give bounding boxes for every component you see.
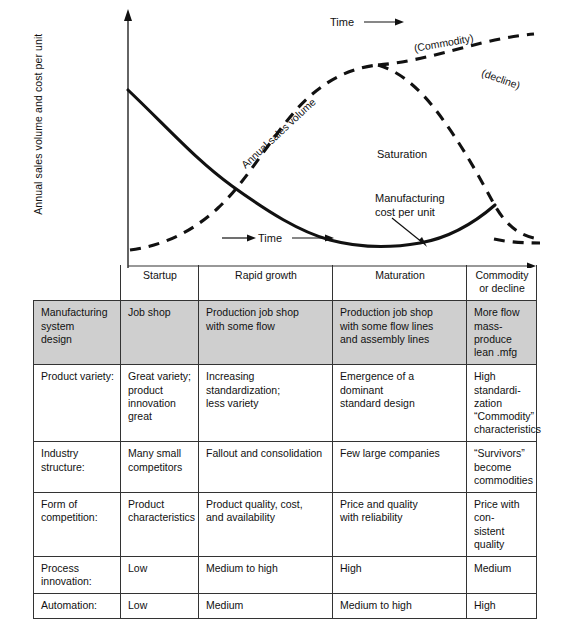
y-axis (124, 9, 132, 268)
table-cell: Job shop (121, 301, 199, 365)
table-cell: Price with con- sistent quality (467, 493, 537, 557)
row-label-manufacturing-system-design: Manufacturing system design (34, 301, 121, 365)
table-cell: Medium to high (199, 556, 333, 593)
table-cell: High (333, 556, 467, 593)
table-cell: Emergence of a dominant standard design (333, 365, 467, 442)
table-row: Automation: Low Medium Medium to high Hi… (34, 594, 537, 618)
row-label-industry-structure: Industry structure: (34, 442, 121, 493)
column-header-commodity-or-decline: Commodity or decline (467, 265, 537, 301)
table-row: Process innovation: Low Medium to high H… (34, 556, 537, 593)
table-row: Manufacturing system design Job shop Pro… (34, 301, 537, 365)
table-row: Form of competition: Product characteris… (34, 493, 537, 557)
table-cell: Great variety; product innovation great (121, 365, 199, 442)
manufacturing-cost-label: Manufacturing cost per unit (375, 192, 445, 220)
table-corner-cell (34, 265, 121, 301)
table-cell: “Survivors” become commodities (467, 442, 537, 493)
table-cell: Medium (199, 594, 333, 618)
time-label-top: Time (330, 16, 354, 29)
time-arrow-bottom-left (222, 235, 256, 242)
table-cell: Production job shop with some flow (199, 301, 333, 365)
column-header-startup: Startup (121, 265, 199, 301)
row-label-product-variety: Product variety: (34, 365, 121, 442)
table-cell: Price and quality with reliability (333, 493, 467, 557)
table-cell: Increasing standardization; less variety (199, 365, 333, 442)
table-cell: Product characteristics (121, 493, 199, 557)
row-label-process-innovation: Process innovation: (34, 556, 121, 593)
table-cell: High (467, 594, 537, 618)
table-cell: Product quality, cost, and availability (199, 493, 333, 557)
product-process-matrix-table: Startup Rapid growth Maturation Commodit… (33, 265, 537, 619)
table-row: Product variety: Great variety; product … (34, 365, 537, 442)
table-header-row: Startup Rapid growth Maturation Commodit… (34, 265, 537, 301)
table-cell: High standardi- zation “Commodity” chara… (467, 365, 537, 442)
table-cell: Production job shop with some flow lines… (333, 301, 467, 365)
table-cell: Few large companies (333, 442, 467, 493)
row-label-form-of-competition: Form of competition: (34, 493, 121, 557)
row-label-automation: Automation: (34, 594, 121, 618)
table-cell: Fallout and consolidation (199, 442, 333, 493)
table-row: Industry structure: Many small competito… (34, 442, 537, 493)
column-header-maturation: Maturation (333, 265, 467, 301)
table-cell: More flow mass-produce lean .mfg (467, 301, 537, 365)
table-cell: Low (121, 556, 199, 593)
column-header-rapid-growth: Rapid growth (199, 265, 333, 301)
decline-tail-curve (494, 239, 540, 243)
saturation-label: Saturation (377, 148, 427, 161)
table-cell: Medium (467, 556, 537, 593)
mfg-cost-leader-line (392, 218, 423, 243)
table-cell: Medium to high (333, 594, 467, 618)
table-cell: Low (121, 594, 199, 618)
time-label-bottom: Time (258, 232, 282, 245)
time-arrow-top (364, 19, 404, 26)
product-process-lifecycle-chart: Annual sales volume and cost per unit Ti… (0, 0, 569, 268)
y-axis-label: Annual sales volume and cost per unit (32, 24, 44, 224)
table-cell: Many small competitors (121, 442, 199, 493)
